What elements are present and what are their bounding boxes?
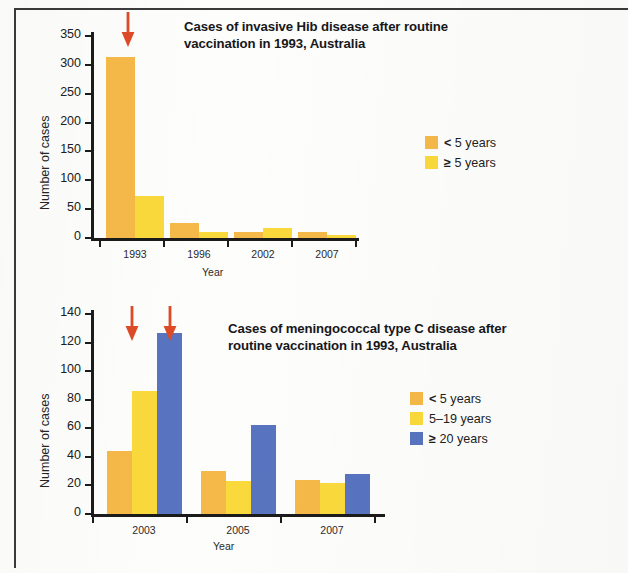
y-tick-mark [85, 93, 93, 95]
x-tick-mark [280, 516, 282, 523]
figure-page: Cases of invasive Hib disease after rout… [0, 0, 628, 573]
legend-hib: < 5 years≥ 5 years [425, 134, 496, 174]
x-tick-label: 1996 [174, 248, 224, 260]
x-tick-label: 2002 [238, 248, 288, 260]
legend-swatch-icon [410, 392, 423, 405]
chart-title-hib-line1: Cases of invasive Hib disease after rout… [184, 19, 448, 34]
legend-item: < 5 years [425, 134, 496, 151]
x-tick-mark [374, 516, 376, 523]
x-tick-mark [186, 516, 188, 523]
y-tick-mark [85, 179, 93, 181]
bar [345, 474, 370, 514]
chart-meningococcal-c: Cases of meningococcal type C disease af… [16, 292, 626, 570]
x-tick-label: 2007 [302, 248, 352, 260]
bar [295, 480, 320, 514]
y-tick-mark [85, 513, 93, 515]
legend-menc: < 5 years5–19 years≥ 20 years [410, 390, 491, 450]
bar [327, 235, 356, 238]
y-tick-label: 20 [37, 476, 81, 490]
legend-item: 5–19 years [410, 410, 491, 427]
bar [132, 391, 157, 514]
y-tick-label: 100 [37, 171, 81, 185]
y-tick-mark [85, 237, 93, 239]
y-tick-mark [85, 313, 93, 315]
y-tick-label: 250 [37, 85, 81, 99]
bar [226, 481, 251, 514]
bar [234, 232, 263, 238]
x-tick-mark [92, 516, 94, 523]
bar [135, 196, 164, 238]
y-tick-mark [85, 122, 93, 124]
x-tick-label: 1993 [110, 248, 160, 260]
bar [298, 232, 327, 238]
y-tick-label: 300 [37, 56, 81, 70]
y-tick-mark [85, 64, 93, 66]
y-axis-label-hib: Number of cases [38, 116, 52, 210]
legend-label: < 5 years [444, 136, 496, 150]
x-axis-label-menc: Year [213, 540, 234, 552]
legend-label: ≥ 20 years [429, 432, 488, 446]
y-tick-label: 80 [37, 391, 81, 405]
chart-hib-disease: Cases of invasive Hib disease after rout… [16, 10, 626, 288]
bar [201, 471, 226, 514]
y-tick-mark [85, 456, 93, 458]
y-tick-label: 350 [37, 27, 81, 41]
plot-area-menc: 020406080100120140200320052007 [91, 314, 363, 514]
bar [199, 232, 228, 238]
y-tick-mark [85, 399, 93, 401]
y-tick-mark [85, 342, 93, 344]
bar [157, 333, 182, 514]
y-tick-mark [85, 35, 93, 37]
legend-item: ≥ 5 years [425, 154, 496, 171]
x-tick-mark [99, 240, 101, 247]
y-tick-mark [85, 484, 93, 486]
bar [320, 483, 345, 514]
y-tick-mark [85, 427, 93, 429]
vaccination-arrow-under-5-icon [125, 306, 139, 342]
legend-item: ≥ 20 years [410, 430, 491, 447]
y-tick-label: 40 [37, 448, 81, 462]
x-tick-mark [291, 240, 293, 247]
legend-swatch-icon [425, 156, 438, 169]
legend-label: 5–19 years [429, 412, 491, 426]
x-tick-label: 2007 [307, 524, 357, 536]
bar [251, 425, 276, 514]
x-axis-line [91, 514, 385, 517]
x-tick-mark [355, 240, 357, 247]
y-axis-label-menc: Number of cases [38, 394, 52, 488]
legend-swatch-icon [410, 412, 423, 425]
legend-swatch-icon [410, 432, 423, 445]
x-tick-label: 2003 [119, 524, 169, 536]
y-tick-label: 0 [37, 505, 81, 519]
y-tick-mark [85, 370, 93, 372]
vaccination-arrow-5-19-icon [163, 306, 177, 342]
bar [263, 228, 292, 238]
y-tick-label: 60 [37, 419, 81, 433]
bar [170, 223, 199, 238]
y-tick-label: 50 [37, 200, 81, 214]
plot-area-hib: 0501001502002503003501993199620022007 [91, 36, 341, 238]
legend-label: < 5 years [429, 392, 481, 406]
bar [107, 451, 132, 514]
vaccination-introduced-arrow-icon [121, 12, 135, 48]
y-tick-label: 140 [37, 305, 81, 319]
y-tick-mark [85, 150, 93, 152]
x-tick-mark [163, 240, 165, 247]
y-tick-mark [85, 208, 93, 210]
x-axis-label-hib: Year [202, 266, 223, 278]
y-tick-label: 200 [37, 114, 81, 128]
y-tick-label: 100 [37, 362, 81, 376]
legend-swatch-icon [425, 136, 438, 149]
y-tick-label: 120 [37, 334, 81, 348]
x-axis-line [91, 238, 359, 241]
y-tick-label: 0 [37, 229, 81, 243]
legend-item: < 5 years [410, 390, 491, 407]
x-tick-label: 2005 [213, 524, 263, 536]
legend-label: ≥ 5 years [444, 156, 496, 170]
y-tick-label: 150 [37, 142, 81, 156]
bar [106, 57, 135, 238]
x-tick-mark [227, 240, 229, 247]
